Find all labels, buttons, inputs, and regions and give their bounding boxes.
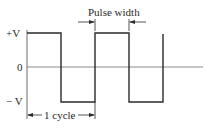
plus-v-label: +V — [6, 27, 20, 39]
pulse-width-arrow-left — [78, 20, 95, 24]
zero-label: 0 — [17, 61, 23, 73]
square-wave-diagram: +V 0 − V Pulse width 1 cycle — [0, 0, 205, 128]
pulse-width-arrow-right — [129, 20, 146, 24]
one-cycle-label: 1 cycle — [44, 109, 76, 121]
pulse-width-label: Pulse width — [88, 6, 140, 18]
minus-v-label: − V — [6, 95, 23, 107]
